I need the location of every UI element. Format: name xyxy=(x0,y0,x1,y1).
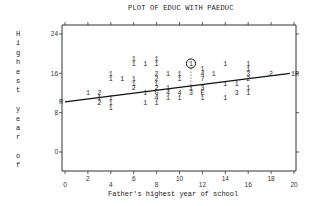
data-point: 2 xyxy=(269,71,273,78)
data-point: 2 xyxy=(97,100,101,107)
data-point: 1 xyxy=(143,90,147,97)
x-tick-label: 16 xyxy=(245,181,253,188)
x-tick-label: 0 xyxy=(63,181,67,188)
x-tick-label: 10 xyxy=(176,175,184,182)
y-tick-label: 0 xyxy=(54,148,58,155)
x-tick-label: 18 xyxy=(267,175,275,182)
y-tick-label: 8 xyxy=(54,109,58,116)
data-point: 2 xyxy=(246,76,250,83)
data-point: 1 xyxy=(223,95,227,102)
data-point: 2 xyxy=(132,85,136,92)
x-tick-label: 4 xyxy=(109,181,113,188)
x-tick-label: 20 xyxy=(290,181,298,188)
regression-marker-left: R xyxy=(59,99,63,106)
data-point: 1 xyxy=(155,100,159,107)
data-point: 1 xyxy=(166,95,170,102)
data-point: 1 xyxy=(109,76,113,83)
data-point: 1 xyxy=(109,105,113,112)
data-point: 1 xyxy=(143,100,147,107)
x-tick-label: 8 xyxy=(155,181,159,188)
data-point: 7 xyxy=(200,76,204,83)
data-point: 1 xyxy=(223,81,227,88)
data-point: 1 xyxy=(223,61,227,68)
data-point: 1 xyxy=(143,61,147,68)
y-tick-label: 24 xyxy=(51,30,59,37)
x-tick-label: 14 xyxy=(222,175,230,182)
x-tick-label: 2 xyxy=(86,175,90,182)
data-point: 1 xyxy=(178,76,182,83)
data-point: 1 xyxy=(155,61,159,68)
data-point: 1 xyxy=(178,95,182,102)
data-point: 1 xyxy=(86,90,90,97)
y-tick-label: 16 xyxy=(51,70,59,77)
highlighted-point: 1 xyxy=(189,61,193,68)
x-tick-label: 6 xyxy=(132,175,136,182)
x-tick-label: 12 xyxy=(199,181,207,188)
data-point: 1 xyxy=(200,95,204,102)
data-point: 1 xyxy=(235,81,239,88)
data-point: 1 xyxy=(212,71,216,78)
regression-marker-right: 1R xyxy=(291,71,299,78)
scatter-plot: 04812162026101418081624R1R12121111111111… xyxy=(0,0,316,206)
data-point: 1 xyxy=(132,61,136,68)
data-point: 1 xyxy=(246,90,250,97)
data-point: 3 xyxy=(189,90,193,97)
data-point: 1 xyxy=(120,76,124,83)
data-point: 3 xyxy=(235,90,239,97)
data-point: 1 xyxy=(166,71,170,78)
